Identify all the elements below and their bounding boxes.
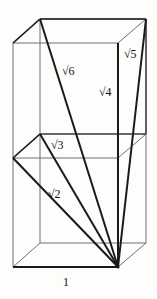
edge-top-right-connector xyxy=(118,19,146,43)
label-unit-one: 1 xyxy=(63,276,69,288)
label-sqrt6: √6 xyxy=(62,65,75,77)
edge-mid-front-left-to-back xyxy=(13,134,40,158)
label-sqrt5: √5 xyxy=(124,48,137,60)
label-sqrt4: √4 xyxy=(99,86,112,98)
edge-bottom-left-connector xyxy=(13,243,40,267)
label-sqrt3: √3 xyxy=(51,139,64,151)
figure-canvas: √6 √5 √4 √3 √2 1 xyxy=(0,0,157,299)
edge-bottom-right-connector xyxy=(118,243,146,267)
sqrt2-diagonal-line xyxy=(13,158,118,267)
label-sqrt2: √2 xyxy=(48,188,61,200)
box-diagram-svg xyxy=(0,0,157,299)
apex-vertex-point xyxy=(116,265,119,268)
edge-top-left-to-back-top-left xyxy=(13,19,40,43)
